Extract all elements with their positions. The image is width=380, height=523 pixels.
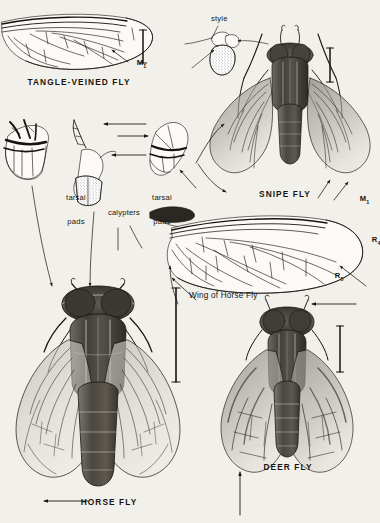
- snipe-fly-vein-label: M1: [350, 187, 370, 213]
- tarsal-pads-line-2: pads: [152, 218, 172, 226]
- horse-fly-wing-r4-label: R4: [362, 228, 380, 254]
- vein-subscript: 1: [143, 62, 146, 68]
- deer-fly-figure: [221, 295, 356, 515]
- horse-fly-wing-caption: Wing of Horse Fly: [189, 292, 257, 301]
- vein-subscript: 1: [366, 198, 369, 204]
- tarsal-pads-line-1: tarsal: [66, 194, 86, 202]
- tangle-veined-fly-vein-label: M1: [127, 51, 147, 77]
- calypters-label: calypters: [108, 209, 140, 217]
- horse-fly-caption: HORSE FLY: [81, 498, 138, 507]
- tarsal-pads-line-1: tarsal: [152, 194, 172, 202]
- snipe-fly-caption: SNIPE FLY: [259, 190, 311, 199]
- horse-fly-wing-r5-label: R5: [325, 264, 344, 290]
- tarsal-pads-label-left: tarsal pads: [66, 178, 86, 242]
- deer-fly-caption: DEER FLY: [263, 463, 312, 472]
- tarsal-pads-line-2: pads: [66, 218, 86, 226]
- tangle-veined-fly-caption: TANGLE-VEINED FLY: [27, 78, 130, 87]
- vein-subscript: 5: [340, 275, 343, 281]
- tarsal-pad-detail-left: [4, 120, 52, 286]
- illustration-plate: TANGLE-VEINED FLY M1 style SNIPE FLY M1 …: [0, 0, 380, 523]
- horse-fly-figure: [16, 278, 180, 501]
- tarsal-pads-label-right: tarsal pads: [152, 178, 172, 242]
- style-label: style: [211, 15, 228, 23]
